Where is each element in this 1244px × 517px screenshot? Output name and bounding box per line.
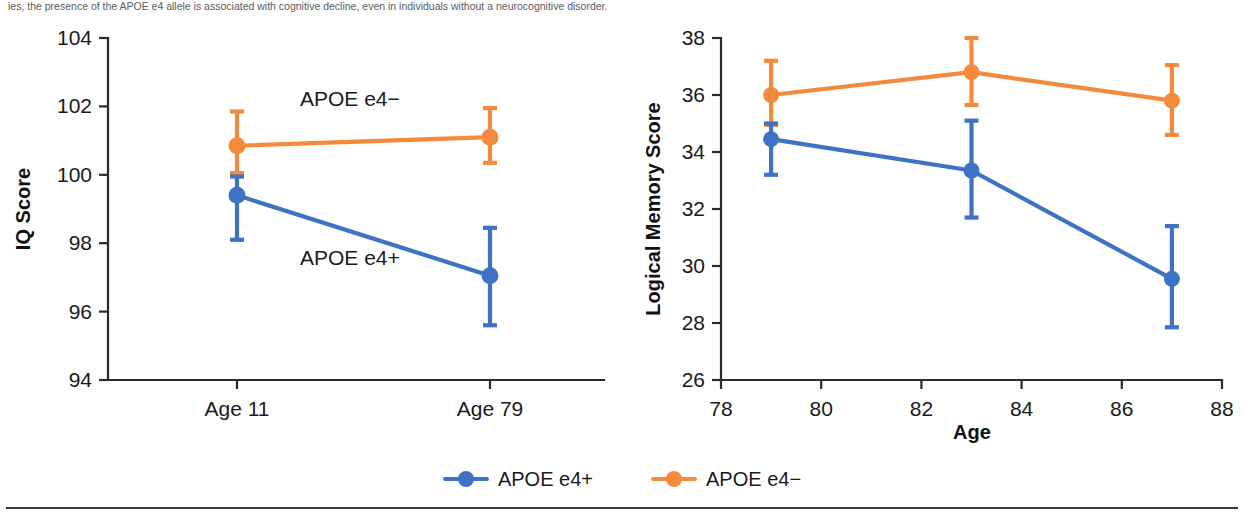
iq-x-ticks [237, 380, 490, 389]
lm-data-point [1164, 271, 1180, 287]
lm-data-point [964, 64, 980, 80]
lm-y-axis-title: Logical Memory Score [642, 102, 664, 315]
iq-x-ticklabel: Age 79 [457, 397, 524, 420]
lm-y-ticklabel: 34 [682, 140, 706, 163]
legend-item-e4-negative[interactable]: APOE e4− [651, 468, 801, 491]
iq-series-line [237, 137, 490, 146]
lm-data-point [964, 163, 980, 179]
iq-y-ticklabel: 104 [57, 26, 92, 49]
lm-x-ticklabel: 78 [709, 397, 732, 420]
lm-chart-svg: 26283032343638 788082848688 Logical Memo… [640, 14, 1244, 459]
lm-y-ticklabel: 26 [682, 368, 705, 391]
iq-annotation-e4-negative: APOE e4− [300, 87, 400, 110]
iq-data-point [482, 129, 499, 146]
legend-marker-e4-positive [443, 471, 489, 487]
figure-caption: ies, the presence of the APOE e4 allele … [8, 0, 1108, 13]
lm-x-ticks [721, 380, 1222, 389]
legend-item-e4-positive[interactable]: APOE e4+ [443, 468, 593, 491]
iq-y-ticklabels: 949698100102104 [57, 26, 92, 391]
legend-label-e4-negative: APOE e4− [706, 468, 801, 491]
iq-data-point [482, 267, 499, 284]
chart-panel-iq: 949698100102104 Age 11Age 79 APOE e4−APO… [0, 14, 640, 459]
iq-y-axis-title: IQ Score [12, 168, 34, 250]
lm-y-ticklabel: 30 [682, 254, 705, 277]
footer-rule [6, 507, 1238, 509]
chart-panel-logical-memory: 26283032343638 788082848688 Logical Memo… [640, 14, 1244, 459]
chart-legend: APOE e4+ APOE e4− [0, 462, 1244, 496]
lm-data-point [763, 87, 779, 103]
iq-data-point [229, 137, 246, 154]
iq-x-ticklabel: Age 11 [205, 397, 270, 420]
lm-y-ticklabel: 32 [682, 197, 705, 220]
lm-x-ticklabel: 84 [1010, 397, 1034, 420]
iq-annotation-e4-positive: APOE e4+ [300, 246, 400, 269]
lm-x-ticklabels: 788082848688 [709, 397, 1233, 420]
iq-x-ticklabels: Age 11Age 79 [205, 397, 524, 420]
lm-x-ticklabel: 86 [1110, 397, 1133, 420]
iq-chart-svg: 949698100102104 Age 11Age 79 APOE e4−APO… [0, 14, 640, 459]
figure-area: 949698100102104 Age 11Age 79 APOE e4−APO… [0, 14, 1244, 494]
lm-y-ticklabel: 36 [682, 83, 705, 106]
iq-y-ticklabel: 94 [69, 368, 93, 391]
lm-x-ticklabel: 80 [810, 397, 833, 420]
lm-y-ticklabel: 38 [682, 26, 705, 49]
iq-data-point [229, 187, 246, 204]
iq-y-ticks [99, 38, 108, 380]
iq-y-ticklabel: 96 [69, 300, 92, 323]
lm-x-ticklabel: 82 [910, 397, 933, 420]
lm-data-point [763, 131, 779, 147]
legend-marker-e4-negative [651, 471, 697, 487]
iq-series-group [229, 108, 499, 325]
legend-label-e4-positive: APOE e4+ [498, 468, 593, 491]
iq-y-ticklabel: 98 [69, 231, 92, 254]
lm-x-axis-title: Age [953, 421, 991, 443]
lm-series-group [763, 38, 1180, 327]
lm-y-ticks [712, 38, 721, 380]
lm-x-ticklabel: 88 [1210, 397, 1233, 420]
iq-y-ticklabel: 102 [57, 94, 92, 117]
iq-y-ticklabel: 100 [57, 163, 92, 186]
lm-y-ticklabel: 28 [682, 311, 705, 334]
lm-data-point [1164, 93, 1180, 109]
lm-y-ticklabels: 26283032343638 [682, 26, 706, 391]
